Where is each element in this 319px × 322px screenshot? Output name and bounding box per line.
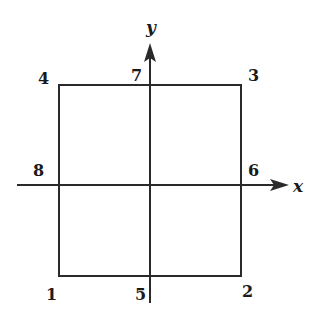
square-element-diagram: y x 4 7 3 8 6 1 5 2 [0, 0, 319, 322]
x-axis-label: x [292, 176, 304, 196]
node-label-6: 6 [248, 161, 259, 180]
y-axis-label: y [145, 17, 157, 37]
node-label-5: 5 [135, 285, 146, 304]
node-label-7: 7 [131, 66, 142, 85]
node-label-2: 2 [242, 282, 253, 301]
node-label-1: 1 [46, 285, 57, 304]
node-label-4: 4 [38, 69, 49, 88]
node-label-3: 3 [248, 66, 259, 85]
node-label-8: 8 [33, 161, 44, 180]
